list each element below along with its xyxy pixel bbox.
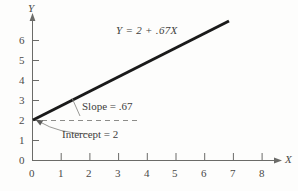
- y-tick-label-5: 5: [19, 54, 25, 66]
- x-axis-label: X: [285, 153, 292, 165]
- x-tick-label-7: 7: [230, 167, 236, 179]
- y-tick-label-0: 0: [19, 154, 25, 166]
- x-tick-label-2: 2: [86, 167, 92, 179]
- x-axis-ticks: [33, 153, 263, 160]
- y-axis-arrowhead: [30, 13, 36, 21]
- x-tick-label-4: 4: [144, 167, 150, 179]
- x-axis-arrowhead: [274, 158, 282, 164]
- x-tick-label-5: 5: [172, 167, 178, 179]
- x-tick-label-6: 6: [201, 167, 207, 179]
- equation-label: Y = 2 + .67X: [116, 24, 178, 36]
- y-tick-label-4: 4: [19, 74, 25, 86]
- x-tick-label-0: 0: [29, 167, 35, 179]
- intercept-annotation-label: Intercept = 2: [62, 128, 118, 140]
- y-tick-label-3: 3: [19, 94, 25, 106]
- y-tick-label-6: 6: [19, 34, 25, 46]
- y-tick-label-1: 1: [19, 134, 25, 146]
- slope-leader-line: [72, 98, 80, 116]
- intercept-arrowhead: [36, 120, 44, 126]
- y-axis-label: Y: [28, 2, 34, 14]
- regression-line-figure: Y X 0 1 2 3 4 5 6 0 1 2 3 4 5 6 7 8 Y = …: [0, 0, 298, 191]
- slope-annotation-label: Slope = .67: [82, 100, 133, 112]
- x-tick-label-3: 3: [115, 167, 121, 179]
- x-tick-label-1: 1: [58, 167, 64, 179]
- y-tick-label-2: 2: [19, 114, 25, 126]
- x-tick-label-8: 8: [259, 167, 265, 179]
- y-axis-ticks: [32, 41, 39, 161]
